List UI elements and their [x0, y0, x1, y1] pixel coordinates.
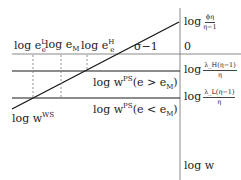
label-axis: log w [184, 160, 214, 171]
label-lambda-low: logλ_L(η−1)η [184, 89, 235, 105]
ws-line [12, 22, 179, 109]
label-eL: log eLe [14, 39, 46, 54]
label-ws: log wWS [12, 112, 54, 124]
label-slope: σ−1 [134, 41, 158, 52]
label-lambda-high: logλ_H(η−1)η [184, 62, 237, 78]
label-zero: 0 [184, 41, 191, 52]
label-top-intercept: logϕηη−1 [184, 14, 217, 30]
label-ps-high: log wPS(e > eM) [93, 76, 178, 91]
label-eM: log eM [45, 39, 79, 53]
label-eH: log eHe [81, 39, 114, 54]
label-ps-low: log wPS(e < eM) [93, 103, 178, 118]
